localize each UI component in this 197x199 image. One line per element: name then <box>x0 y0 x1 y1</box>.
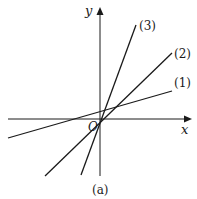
line-graph-diagram: y x O (3) (2) (1) (a) <box>0 0 197 199</box>
line-2-label: (2) <box>174 47 191 61</box>
y-axis-arrow-icon <box>97 7 104 15</box>
x-axis-label: x <box>181 122 189 137</box>
line-1-label: (1) <box>174 76 191 90</box>
origin-label: O <box>88 120 98 134</box>
line-2 <box>45 53 172 176</box>
figure-caption: (a) <box>92 183 109 197</box>
line-3-label: (3) <box>139 19 156 33</box>
y-axis-label: y <box>84 3 93 18</box>
line-3 <box>81 25 136 175</box>
